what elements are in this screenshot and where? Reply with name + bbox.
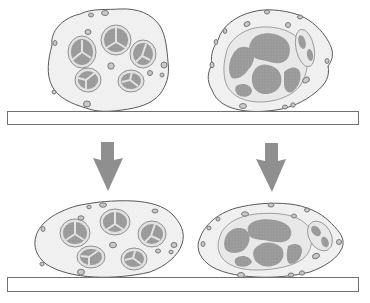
arrow-down-icon (93, 142, 123, 191)
fascicle (101, 25, 131, 55)
fascicle (77, 246, 105, 268)
fascicle (68, 36, 96, 68)
fascicle (121, 248, 147, 270)
nerve-oligo-before (48, 9, 168, 111)
fascicle (138, 221, 166, 247)
nerve-oligo-after (35, 201, 183, 278)
fascicle (100, 209, 130, 235)
fascicle (75, 68, 101, 92)
nerve-poly-before (208, 10, 332, 112)
surface-bottom (8, 278, 359, 292)
arrow-down-icon (256, 143, 286, 192)
surface-top (8, 112, 359, 125)
nerve-compression-diagram (0, 0, 370, 303)
nerve-poly-after (198, 203, 343, 278)
fascicle (118, 70, 144, 92)
fascicle (60, 219, 90, 247)
fascicle (130, 40, 156, 68)
